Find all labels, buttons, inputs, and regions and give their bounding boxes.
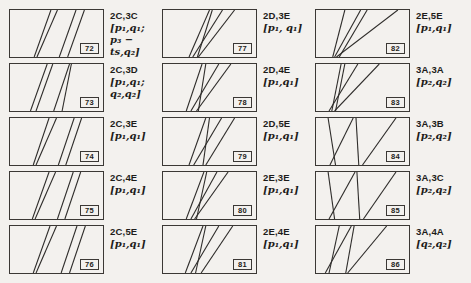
pattern-cell-86: 86 3A,4A [q₂,q₂] bbox=[315, 225, 468, 274]
pattern-code: 3A,3A bbox=[416, 64, 468, 75]
pattern-code: 2E,5E bbox=[416, 10, 468, 21]
pattern-labels: 3A,4A [q₂,q₂] bbox=[416, 225, 468, 250]
pattern-number-badge: 84 bbox=[386, 151, 405, 162]
pattern-diagram: 72 bbox=[9, 9, 104, 58]
pattern-code: 2C,5E bbox=[110, 226, 162, 237]
pattern-code: 2C,3C bbox=[110, 10, 162, 21]
pattern-cell-79: 79 2D,5E [p₁,q₁] bbox=[162, 117, 315, 166]
pattern-cell-82: 82 2E,5E [p₁,q₁] bbox=[315, 9, 468, 58]
pattern-number-badge: 79 bbox=[233, 151, 252, 162]
pattern-labels: 2D,5E [p₁,q₁] bbox=[263, 117, 315, 142]
pattern-number-badge: 77 bbox=[233, 43, 252, 54]
pattern-number-badge: 85 bbox=[386, 205, 405, 216]
pattern-params: [p₂,q₂] bbox=[416, 76, 468, 88]
pattern-cell-80: 80 2E,3E [p₁,q₁] bbox=[162, 171, 315, 220]
pattern-labels: 2E,5E [p₁,q₁] bbox=[416, 9, 468, 34]
pattern-diagram: 79 bbox=[162, 117, 257, 166]
pattern-diagram: 80 bbox=[162, 171, 257, 220]
pattern-code: 2E,4E bbox=[263, 226, 315, 237]
pattern-number-badge: 76 bbox=[80, 259, 99, 270]
pattern-cell-75: 75 2C,4E [p₁,q₁] bbox=[9, 171, 162, 220]
pattern-number-badge: 81 bbox=[233, 259, 252, 270]
pattern-cell-81: 81 2E,4E [p₁,q₁] bbox=[162, 225, 315, 274]
pattern-diagram: 73 bbox=[9, 63, 104, 112]
pattern-params: [p₁,q₁] bbox=[110, 184, 162, 196]
pattern-labels: 3A,3B [p₂,q₂] bbox=[416, 117, 468, 142]
pattern-diagram: 86 bbox=[315, 225, 410, 274]
pattern-diagram: 78 bbox=[162, 63, 257, 112]
pattern-params: [p₁,q₁] bbox=[110, 130, 162, 142]
pattern-cell-83: 83 3A,3A [p₂,q₂] bbox=[315, 63, 468, 112]
pattern-diagram: 84 bbox=[315, 117, 410, 166]
pattern-grid: 72 2C,3C [p₁,q₁; p₃ − ts,q₂] 73 2C,3D [p… bbox=[0, 0, 471, 283]
pattern-labels: 2E,3E [p₁,q₁] bbox=[263, 171, 315, 196]
pattern-params: [p₁,q₁] bbox=[110, 238, 162, 250]
pattern-number-badge: 72 bbox=[80, 43, 99, 54]
pattern-number-badge: 80 bbox=[233, 205, 252, 216]
pattern-diagram: 76 bbox=[9, 225, 104, 274]
pattern-diagram: 85 bbox=[315, 171, 410, 220]
pattern-code: 2E,3E bbox=[263, 172, 315, 183]
pattern-diagram: 77 bbox=[162, 9, 257, 58]
pattern-number-badge: 73 bbox=[80, 97, 99, 108]
pattern-diagram: 81 bbox=[162, 225, 257, 274]
pattern-params: [p₁,q₁] bbox=[263, 184, 315, 196]
pattern-diagram: 74 bbox=[9, 117, 104, 166]
pattern-labels: 2C,3E [p₁,q₁] bbox=[110, 117, 162, 142]
pattern-params: [q₂,q₂] bbox=[416, 238, 468, 250]
pattern-code: 2D,5E bbox=[263, 118, 315, 129]
pattern-code: 2C,4E bbox=[110, 172, 162, 183]
pattern-code: 2C,3D bbox=[110, 64, 162, 75]
pattern-code: 2D,4E bbox=[263, 64, 315, 75]
pattern-params: [p₁,q₁] bbox=[263, 76, 315, 88]
pattern-params: [p₂,q₂] bbox=[416, 130, 468, 142]
pattern-code: 3A,3C bbox=[416, 172, 468, 183]
pattern-diagram: 83 bbox=[315, 63, 410, 112]
pattern-cell-78: 78 2D,4E [p₁,q₁] bbox=[162, 63, 315, 112]
pattern-code: 3A,4A bbox=[416, 226, 468, 237]
pattern-labels: 2C,3C [p₁,q₁; p₃ − ts,q₂] bbox=[110, 9, 162, 58]
pattern-labels: 2D,3E [p₁, q₁] bbox=[263, 9, 315, 34]
pattern-cell-73: 73 2C,3D [p₁,q₁; q₂,q₂] bbox=[9, 63, 162, 112]
pattern-params: [p₁, q₁] bbox=[263, 22, 315, 34]
pattern-params: [p₁,q₁; q₂,q₂] bbox=[110, 76, 162, 100]
pattern-params: [p₁,q₁; p₃ − ts,q₂] bbox=[110, 22, 162, 58]
pattern-cell-77: 77 2D,3E [p₁, q₁] bbox=[162, 9, 315, 58]
pattern-number-badge: 82 bbox=[386, 43, 405, 54]
pattern-labels: 3A,3A [p₂,q₂] bbox=[416, 63, 468, 88]
pattern-labels: 2E,4E [p₁,q₁] bbox=[263, 225, 315, 250]
pattern-diagram: 82 bbox=[315, 9, 410, 58]
pattern-params: [p₁,q₁] bbox=[416, 22, 468, 34]
pattern-labels: 2C,4E [p₁,q₁] bbox=[110, 171, 162, 196]
pattern-params: [p₁,q₁] bbox=[263, 130, 315, 142]
pattern-number-badge: 86 bbox=[386, 259, 405, 270]
pattern-params: [p₁,q₁] bbox=[263, 238, 315, 250]
pattern-labels: 2C,3D [p₁,q₁; q₂,q₂] bbox=[110, 63, 162, 100]
pattern-cell-76: 76 2C,5E [p₁,q₁] bbox=[9, 225, 162, 274]
pattern-code: 2D,3E bbox=[263, 10, 315, 21]
pattern-code: 2C,3E bbox=[110, 118, 162, 129]
pattern-cell-74: 74 2C,3E [p₁,q₁] bbox=[9, 117, 162, 166]
pattern-number-badge: 78 bbox=[233, 97, 252, 108]
pattern-diagram: 75 bbox=[9, 171, 104, 220]
pattern-number-badge: 74 bbox=[80, 151, 99, 162]
pattern-labels: 3A,3C [p₂,q₂] bbox=[416, 171, 468, 196]
pattern-params: [p₂,q₂] bbox=[416, 184, 468, 196]
pattern-labels: 2C,5E [p₁,q₁] bbox=[110, 225, 162, 250]
pattern-number-badge: 83 bbox=[386, 97, 405, 108]
pattern-cell-72: 72 2C,3C [p₁,q₁; p₃ − ts,q₂] bbox=[9, 9, 162, 58]
pattern-cell-85: 85 3A,3C [p₂,q₂] bbox=[315, 171, 468, 220]
pattern-cell-84: 84 3A,3B [p₂,q₂] bbox=[315, 117, 468, 166]
pattern-code: 3A,3B bbox=[416, 118, 468, 129]
pattern-labels: 2D,4E [p₁,q₁] bbox=[263, 63, 315, 88]
pattern-number-badge: 75 bbox=[80, 205, 99, 216]
